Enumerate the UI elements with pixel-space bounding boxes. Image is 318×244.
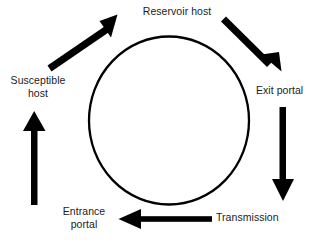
node-label-susceptible-host: Susceptible host xyxy=(1,74,75,99)
node-label-transmission: Transmission xyxy=(216,211,316,224)
arrow-entrance-to-susceptible xyxy=(23,111,46,205)
node-label-exit-portal: Exit portal xyxy=(256,84,318,97)
cycle-diagram: Reservoir host Exit portal Transmission … xyxy=(0,0,318,244)
arrow-susceptible-to-reservoir xyxy=(48,15,118,72)
node-label-entrance-portal: Entrance portal xyxy=(48,205,120,230)
arrow-transmission-to-entrance xyxy=(119,209,213,229)
central-circle xyxy=(89,37,249,205)
arrow-exit-to-transmission xyxy=(272,107,294,201)
node-label-reservoir-host: Reservoir host xyxy=(131,5,223,18)
arrow-reservoir-to-exit xyxy=(221,17,282,72)
